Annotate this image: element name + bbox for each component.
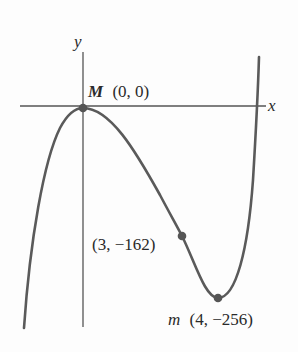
min-coords: (4, −256)	[190, 310, 253, 329]
mid-point	[178, 232, 187, 241]
mid-label: (3, −162)	[92, 235, 155, 254]
min-letter: m	[168, 310, 180, 329]
local-max-point	[79, 104, 88, 113]
max-letter: M	[87, 82, 104, 101]
local-min-point	[214, 294, 223, 303]
max-label: M (0, 0)	[87, 82, 149, 101]
x-axis-label: x	[267, 96, 276, 115]
y-axis-label: y	[72, 32, 82, 51]
graph-canvas: y x M (0, 0) (3, −162) m (4, −256)	[0, 0, 298, 352]
min-label: m (4, −256)	[168, 310, 253, 329]
max-coords: (0, 0)	[112, 82, 149, 101]
